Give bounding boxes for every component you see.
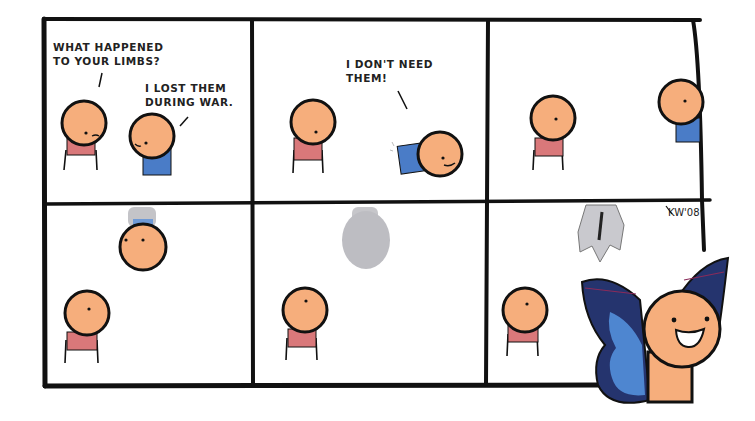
comic-strip: WHAT HAPPENED TO YOUR LIMBS? I LOST THEM…: [0, 0, 755, 421]
artist-signature: KW'08: [668, 207, 700, 218]
